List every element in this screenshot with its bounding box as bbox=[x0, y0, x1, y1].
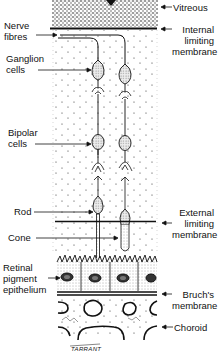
label-bipolar-cells: Bipolar cells bbox=[8, 127, 38, 149]
retina-region bbox=[53, 30, 157, 254]
label-rpe: Retinal pigment epithelium bbox=[3, 262, 46, 295]
signature: TARRANT bbox=[71, 346, 102, 352]
label-line: fibres bbox=[4, 31, 29, 42]
label-line: Ganglion bbox=[6, 53, 44, 64]
label-ganglion-cells: Ganglion cells bbox=[6, 53, 44, 75]
label-line: membrane bbox=[172, 46, 214, 57]
label-line: pigment bbox=[3, 273, 46, 284]
label-rod: Rod bbox=[14, 206, 31, 217]
choroid-region bbox=[57, 297, 157, 340]
label-line: Bipolar bbox=[8, 127, 38, 138]
cone-cell bbox=[120, 209, 130, 251]
label-line: limiting bbox=[172, 218, 214, 229]
label-choroid: Choroid bbox=[174, 322, 207, 333]
label-line: cells bbox=[6, 64, 44, 75]
label-line: membrane bbox=[172, 229, 214, 240]
label-line: External bbox=[172, 207, 214, 218]
label-line: Nerve bbox=[4, 20, 29, 31]
label-cone: Cone bbox=[8, 232, 31, 243]
vitreous-region bbox=[52, 0, 158, 27]
label-line: Internal bbox=[172, 24, 214, 35]
label-line: Bruch's bbox=[172, 289, 214, 300]
label-line: limiting bbox=[172, 35, 214, 46]
retinal-pigment-epithelium bbox=[57, 255, 157, 291]
label-nerve-fibres: Nerve fibres bbox=[4, 20, 29, 42]
label-elm: External limiting membrane bbox=[172, 207, 214, 240]
label-vitreous: Vitreous bbox=[173, 2, 208, 13]
label-line: cells bbox=[8, 138, 38, 149]
label-line: Retinal bbox=[3, 262, 46, 273]
label-ilm: Internal limiting membrane bbox=[172, 24, 214, 57]
label-line: membrane bbox=[172, 300, 214, 311]
label-line: epithelium bbox=[3, 284, 46, 295]
label-bruchs: Bruch's membrane bbox=[172, 289, 214, 311]
